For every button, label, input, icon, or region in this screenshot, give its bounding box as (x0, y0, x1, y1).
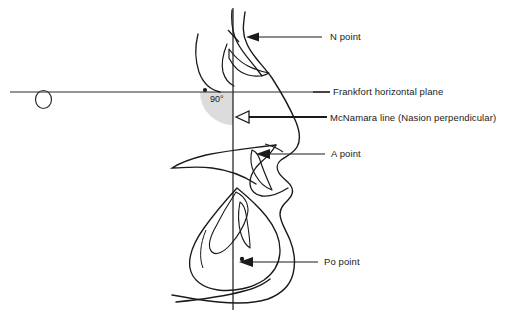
ramus-contour (201, 230, 206, 268)
label-po-point: Po point (324, 257, 360, 267)
profile-tracing-canvas (0, 0, 521, 318)
mandible-inner-outline (210, 192, 248, 254)
soft-tissue-profile-outline (172, 12, 300, 303)
orbital-roof-contour (222, 44, 234, 86)
label-n-point: N point (330, 32, 361, 42)
fh-intersection-dot (203, 88, 207, 92)
leader-n-point (246, 33, 322, 42)
leader-a-point (256, 149, 325, 159)
nasal-bone-wedge (229, 49, 269, 76)
leader-mcnamara-line (236, 111, 327, 123)
orbitale-circle-icon (36, 91, 52, 109)
cephalometric-diagram: 90° N point Frankfort horizontal plane M… (0, 0, 521, 318)
right-angle-label: 90° (210, 95, 224, 104)
label-a-point: A point (331, 149, 361, 159)
label-frankfort-horizontal-plane: Frankfort horizontal plane (333, 87, 443, 97)
label-mcnamara-line: McNamara line (Nasion perpendicular) (330, 113, 496, 123)
frontal-bone-contour (196, 34, 220, 92)
zygomatic-arch-contour (172, 145, 276, 184)
